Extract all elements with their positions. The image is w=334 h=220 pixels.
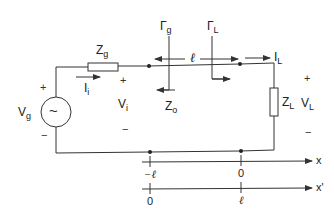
- gamma-g-letter: Γ: [160, 19, 167, 33]
- zl-label: ZL: [282, 96, 294, 108]
- vi-minus: −: [122, 124, 128, 135]
- zg-label: Zg: [96, 44, 108, 56]
- source-minus: −: [41, 130, 47, 141]
- source-voltage-letter: V: [18, 105, 26, 119]
- ac-source-symbol: ~: [49, 103, 58, 118]
- gamma-l-marker: [212, 36, 226, 79]
- vl-plus: +: [304, 73, 310, 84]
- vl-minus: −: [305, 127, 311, 138]
- vi-plus: +: [120, 75, 126, 86]
- gamma-g-label: Γg: [160, 20, 172, 32]
- vi-letter: V: [118, 97, 126, 111]
- gamma-g-sub: g: [167, 25, 172, 35]
- axis-xprime: [142, 188, 312, 189]
- zo-label: Zo: [165, 100, 177, 112]
- vi-sub: i: [126, 103, 128, 113]
- line-length-label: ℓ: [190, 51, 195, 64]
- axis-x-tick-left: −ℓ: [144, 169, 156, 180]
- source-voltage-sub: g: [26, 111, 31, 121]
- axis-x-tick-right: 0: [238, 168, 244, 179]
- wire-top-line: [118, 63, 274, 66]
- vl-label: VL: [301, 97, 314, 109]
- gamma-l-sub: L: [214, 25, 219, 35]
- gamma-g-marker: [158, 36, 169, 90]
- il-label: IL: [274, 51, 282, 63]
- axis-xprime-label: x': [316, 182, 324, 193]
- gamma-l-label: ΓL: [207, 20, 219, 32]
- node-load-bottom: [239, 149, 243, 153]
- node-input-bottom: [148, 150, 152, 154]
- axis-x-label: x: [316, 155, 322, 166]
- axis-xprime-tick-left: 0: [147, 196, 153, 207]
- gamma-l-letter: Γ: [207, 19, 214, 33]
- vl-sub: L: [309, 102, 314, 112]
- zl-sub: L: [289, 101, 294, 111]
- zg-sub: g: [103, 49, 108, 59]
- vi-label: Vi: [118, 98, 128, 110]
- ii-label: Ii: [84, 82, 89, 94]
- vl-letter: V: [301, 96, 309, 110]
- source-plus: +: [40, 82, 46, 93]
- axis-xprime-tick-right: ℓ: [239, 195, 244, 206]
- zo-sub: o: [172, 105, 177, 115]
- node-load-top: [238, 62, 242, 66]
- axis-x: [142, 161, 312, 162]
- node-input-top: [147, 64, 151, 68]
- il-sub: L: [277, 56, 282, 66]
- source-voltage-label: Vg: [18, 106, 31, 118]
- resistor-zg: [88, 63, 118, 71]
- resistor-zl: [270, 88, 278, 116]
